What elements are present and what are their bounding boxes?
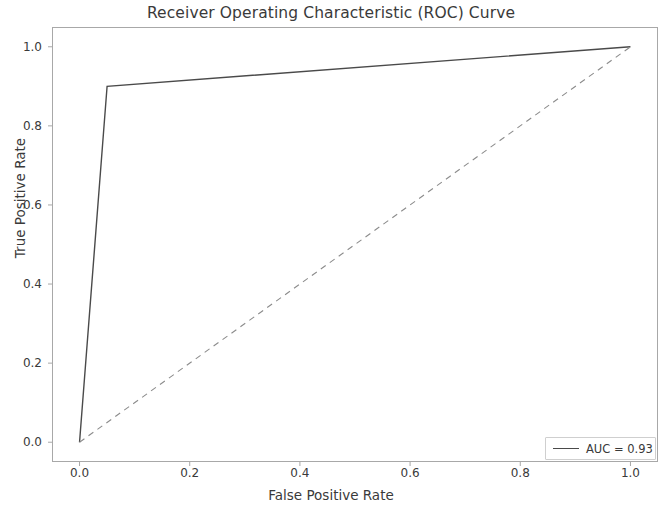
y-tick-label: 0.0: [8, 435, 42, 449]
x-tick-label: 0.0: [70, 466, 89, 480]
y-tick-label: 1.0: [8, 40, 42, 54]
x-axis-tick-marks: [80, 462, 631, 466]
x-tick-label: 1.0: [621, 466, 640, 480]
x-tick-label: 0.2: [180, 466, 199, 480]
legend-entry-label: AUC = 0.93: [586, 442, 653, 456]
y-axis-tick-marks: [48, 47, 52, 442]
y-tick-label: 0.2: [8, 356, 42, 370]
x-tick-label: 0.6: [401, 466, 420, 480]
y-axis-label: True Positive Rate: [12, 98, 28, 298]
x-tick-label: 0.8: [511, 466, 530, 480]
legend[interactable]: AUC = 0.93: [545, 437, 656, 460]
x-axis-label: False Positive Rate: [0, 487, 662, 503]
x-tick-label: 0.4: [290, 466, 309, 480]
roc-curve-figure: Receiver Operating Characteristic (ROC) …: [0, 0, 662, 514]
legend-line-swatch: [553, 448, 579, 449]
